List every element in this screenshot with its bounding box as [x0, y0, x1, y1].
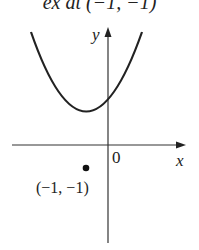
y-axis-arrow-icon: [105, 27, 112, 37]
vertex-point: [83, 165, 90, 172]
parabola-curve: [31, 32, 142, 112]
vertex-label: (−1, −1): [36, 179, 89, 197]
origin-label: 0: [112, 148, 121, 167]
x-axis-arrow-icon: [176, 142, 186, 149]
y-axis-label: y: [90, 25, 100, 44]
x-axis-label: x: [175, 151, 184, 170]
parabola-graph: y 0 x (−1, −1): [0, 0, 199, 250]
